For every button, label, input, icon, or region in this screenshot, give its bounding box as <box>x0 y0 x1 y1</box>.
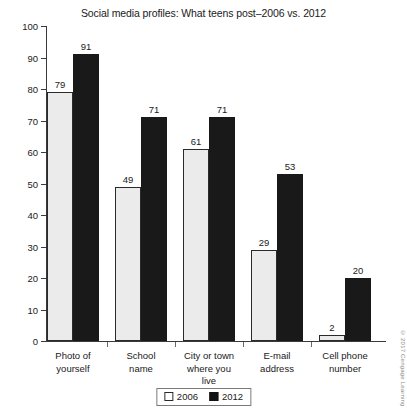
y-tick-label-100: 100 <box>2 21 38 32</box>
bar-value-2012-0: 91 <box>73 41 99 52</box>
y-tick-0 <box>41 341 47 342</box>
chart-legend: 2006 2012 <box>156 388 251 406</box>
bar-2006-0 <box>47 92 73 341</box>
category-label-line: yourself <box>35 363 111 376</box>
bar-value-2012-3: 53 <box>277 161 303 172</box>
category-label-line: number <box>307 363 383 376</box>
bar-value-2006-0: 79 <box>47 79 73 90</box>
category-label-1: Schoolname <box>103 350 179 375</box>
category-label-line: name <box>103 363 179 376</box>
bar-value-2006-2: 61 <box>183 136 209 147</box>
y-tick-label-10: 10 <box>2 304 38 315</box>
category-label-line: City or town <box>171 350 247 363</box>
x-tick-divider-3 <box>243 342 244 347</box>
bar-2012-3 <box>277 174 303 341</box>
plot-area: 7991497161712953220 <box>47 26 386 341</box>
bar-2006-1 <box>115 187 141 341</box>
bar-2006-4 <box>319 335 345 341</box>
category-label-2: City or townwhere youlive <box>171 350 247 388</box>
bar-2006-3 <box>251 250 277 341</box>
x-axis-line <box>46 341 386 342</box>
category-label-line: where you <box>171 363 247 376</box>
category-label-line: Photo of <box>35 350 111 363</box>
bar-value-2012-4: 20 <box>345 265 371 276</box>
bar-2012-1 <box>141 117 167 341</box>
x-tick-divider-1 <box>107 342 108 347</box>
y-tick-label-40: 40 <box>2 210 38 221</box>
y-tick-label-0: 0 <box>2 336 38 347</box>
bar-value-2006-3: 29 <box>251 237 277 248</box>
legend-label-2006: 2006 <box>177 391 198 402</box>
bar-value-2012-2: 71 <box>209 104 235 115</box>
legend-item-2012: 2012 <box>209 391 243 402</box>
y-tick-label-20: 20 <box>2 273 38 284</box>
y-tick-label-70: 70 <box>2 115 38 126</box>
category-label-line: Cell phone <box>307 350 383 363</box>
legend-swatch-2006 <box>164 392 173 401</box>
bar-chart: Social media profiles: What teens post–2… <box>0 0 407 413</box>
legend-item-2006: 2006 <box>164 391 198 402</box>
legend-swatch-2012 <box>209 392 218 401</box>
category-label-3: E-mailaddress <box>239 350 315 375</box>
category-label-line: School <box>103 350 179 363</box>
bar-value-2006-1: 49 <box>115 174 141 185</box>
category-label-line: E-mail <box>239 350 315 363</box>
category-label-4: Cell phonenumber <box>307 350 383 375</box>
bar-2012-0 <box>73 54 99 341</box>
bar-2012-2 <box>209 117 235 341</box>
y-tick-label-60: 60 <box>2 147 38 158</box>
y-tick-label-30: 30 <box>2 241 38 252</box>
bar-value-2006-4: 2 <box>319 322 345 333</box>
y-tick-label-50: 50 <box>2 178 38 189</box>
category-label-line: address <box>239 363 315 376</box>
y-tick-label-90: 90 <box>2 52 38 63</box>
copyright-notice: © 2017 Cengage Learning <box>400 330 406 407</box>
bar-value-2012-1: 71 <box>141 104 167 115</box>
y-tick-label-80: 80 <box>2 84 38 95</box>
x-tick-divider-4 <box>311 342 312 347</box>
chart-title: Social media profiles: What teens post–2… <box>0 7 407 19</box>
bar-2006-2 <box>183 149 209 341</box>
legend-label-2012: 2012 <box>222 391 243 402</box>
x-tick-divider-2 <box>175 342 176 347</box>
bar-2012-4 <box>345 278 371 341</box>
category-label-0: Photo ofyourself <box>35 350 111 375</box>
category-label-line: live <box>171 375 247 388</box>
